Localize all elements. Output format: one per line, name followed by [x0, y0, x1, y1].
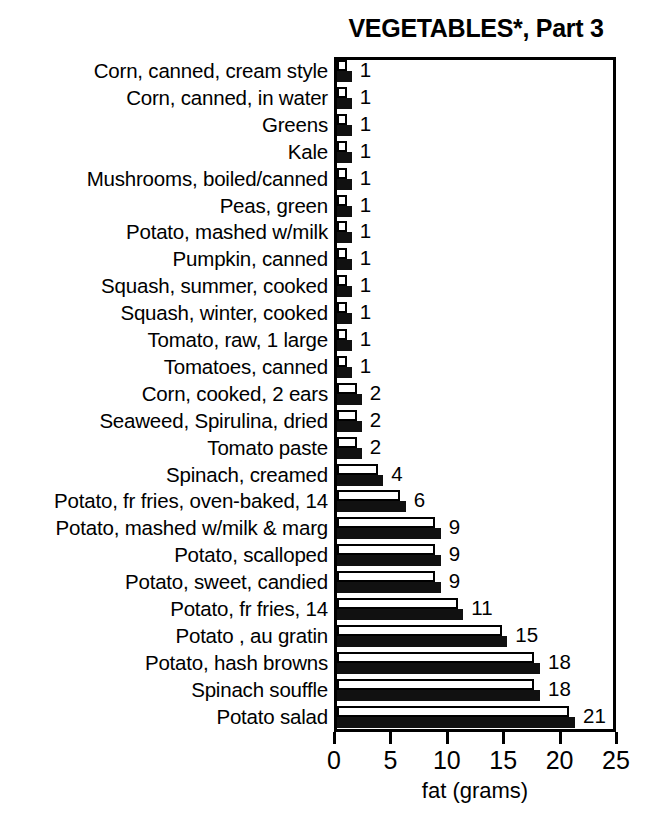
x-tick-label: 0 [304, 745, 364, 775]
vegetables-fat-bar-chart: VEGETABLES*, Part 3 Corn, canned, cream … [0, 0, 665, 813]
x-tick-mark [559, 732, 562, 744]
x-axis-title: fat (grams) [334, 778, 616, 804]
x-tick-label: 20 [530, 745, 590, 775]
x-tick-mark [389, 732, 392, 744]
x-tick-label: 5 [360, 745, 420, 775]
x-tick-mark [333, 732, 336, 744]
x-tick-mark [446, 732, 449, 744]
x-tick-label: 15 [473, 745, 533, 775]
x-tick-label: 10 [417, 745, 477, 775]
x-tick-label: 25 [586, 745, 646, 775]
x-tick-mark [502, 732, 505, 744]
x-tick-mark [615, 732, 618, 744]
x-axis: 0510152025 [0, 0, 665, 813]
